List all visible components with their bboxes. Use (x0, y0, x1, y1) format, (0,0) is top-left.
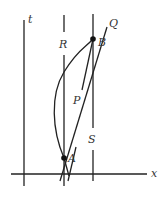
event-b-dot (90, 36, 96, 42)
label-p: P (72, 94, 81, 107)
x-axis-label: x (151, 167, 158, 180)
label-a: A (67, 152, 76, 165)
worldline-p-upper (82, 39, 93, 90)
event-a-dot (61, 155, 67, 161)
label-q: Q (109, 17, 118, 30)
label-b: B (97, 36, 106, 49)
label-r: R (58, 38, 67, 51)
spacetime-diagram: t x R S Q P A B (0, 0, 165, 201)
label-s: S (88, 133, 96, 146)
t-axis-label: t (28, 13, 33, 26)
